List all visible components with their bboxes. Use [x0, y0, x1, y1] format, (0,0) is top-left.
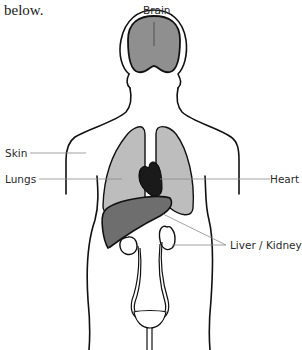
lungs-label: Lungs — [5, 173, 36, 185]
bladder — [134, 311, 166, 329]
liver-kidneys-label: Liver / Kidneys — [230, 239, 302, 251]
human-body-diagram: Brain Skin Lungs Heart Liver / Kidneys — [0, 0, 302, 350]
right-torso — [205, 176, 213, 350]
left-torso — [87, 176, 98, 350]
urinary-tract — [131, 242, 168, 350]
brain-label: Brain — [143, 4, 171, 16]
brain-organ — [128, 16, 180, 72]
heart-label: Heart — [270, 173, 299, 185]
skin-label: Skin — [5, 147, 27, 159]
left-kidney — [120, 237, 137, 255]
